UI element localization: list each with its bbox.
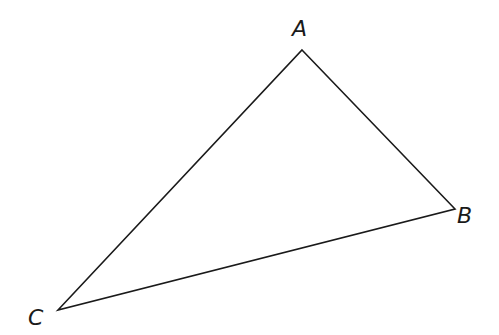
vertex-label-b: B [457,203,472,228]
vertex-label-c: C [28,305,44,330]
triangle-diagram: A B C [0,0,499,335]
triangle-svg: A B C [0,0,499,335]
triangle-abc [58,50,455,310]
vertex-label-a: A [290,16,307,41]
